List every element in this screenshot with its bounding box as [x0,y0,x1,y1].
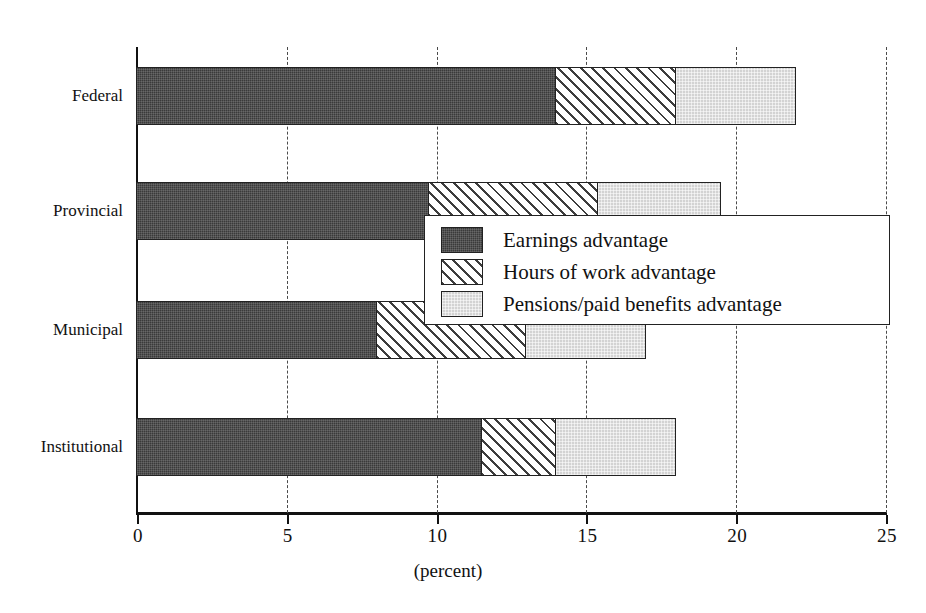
x-axis-tick [287,515,289,524]
bar-segment [555,418,676,476]
bar-segment [136,418,482,476]
x-axis-tick [886,515,888,524]
x-axis-title: (percent) [0,560,926,582]
x-axis-tick [736,515,738,524]
bar-segment [136,182,429,240]
legend-swatch-hours-icon [441,259,483,285]
x-axis-title-text: (percent) [414,560,483,581]
legend-label-pensions: Pensions/paid benefits advantage [503,292,782,317]
bar-segment [555,67,676,125]
bar-segment [136,67,556,125]
bar-segment [481,418,557,476]
legend-label-hours: Hours of work advantage [503,260,716,285]
legend-swatch-earnings-icon [441,227,483,253]
legend-label-earnings: Earnings advantage [503,228,668,253]
legend-item: Earnings advantage [441,224,889,256]
x-axis-tick [586,515,588,524]
category-label: Federal [72,86,123,106]
x-axis-tick-label: 20 [717,525,757,547]
x-axis-tick [437,515,439,524]
bar-segment [675,67,796,125]
x-axis-tick-label: 10 [418,525,458,547]
category-label: Municipal [53,320,123,340]
bar-segment [136,301,377,359]
category-label: Provincial [53,201,123,221]
stacked-bar-chart: FederalProvincialMunicipalInstitutional … [0,0,926,613]
x-axis-tick-label: 25 [867,525,907,547]
bar-row: Federal [137,67,886,125]
bar-row: Institutional [137,418,886,476]
x-axis-tick-label: 5 [268,525,308,547]
legend-item: Hours of work advantage [441,256,889,288]
legend-item: Pensions/paid benefits advantage [441,288,889,320]
x-axis-tick-label: 0 [118,525,158,547]
chart-legend: Earnings advantage Hours of work advanta… [424,215,890,325]
legend-swatch-pensions-icon [441,291,483,317]
x-axis-tick-label: 15 [567,525,607,547]
x-axis-tick [137,515,139,524]
category-label: Institutional [41,437,123,457]
